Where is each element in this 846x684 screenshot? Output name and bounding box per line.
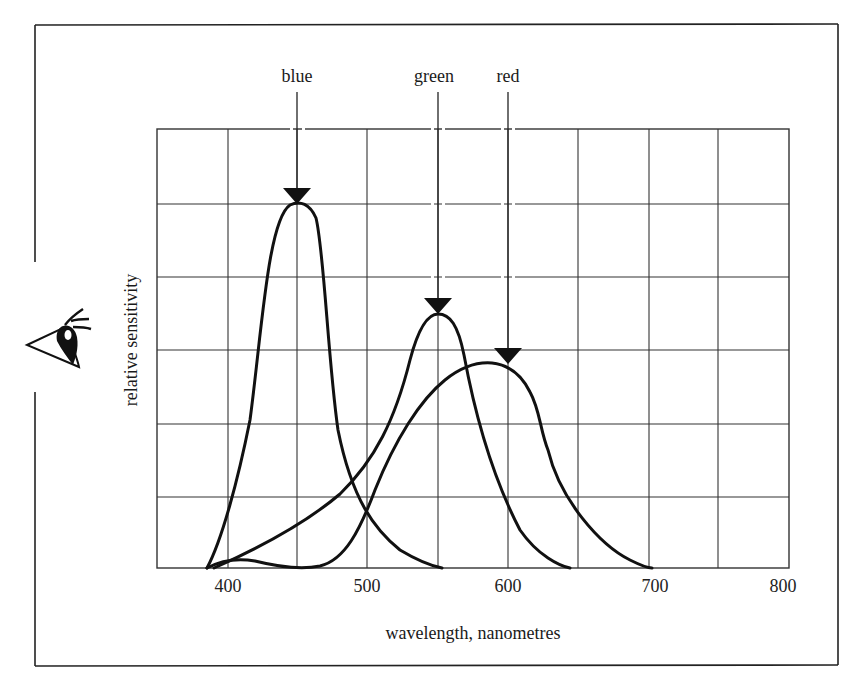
pointer-gaps xyxy=(290,129,515,277)
blue-curve xyxy=(207,203,442,568)
y-axis-label: relative sensitivity xyxy=(121,274,142,406)
x-tick-600: 600 xyxy=(495,576,522,597)
x-tick-500: 500 xyxy=(354,576,381,597)
green-peak-marker xyxy=(424,298,452,314)
eye-icon xyxy=(27,309,91,367)
x-tick-400: 400 xyxy=(215,576,242,597)
x-tick-800: 800 xyxy=(770,576,797,597)
x-axis-label: wavelength, nanometres xyxy=(386,623,561,644)
label-red: red xyxy=(497,66,520,87)
pointer-lines xyxy=(297,92,508,350)
peak-markers xyxy=(283,188,522,364)
label-green: green xyxy=(414,66,454,87)
curves xyxy=(207,203,652,568)
red-peak-marker xyxy=(494,348,522,364)
plot-grid xyxy=(157,129,789,568)
x-tick-700: 700 xyxy=(642,576,669,597)
blue-peak-marker xyxy=(283,188,311,204)
label-blue: blue xyxy=(282,66,313,87)
